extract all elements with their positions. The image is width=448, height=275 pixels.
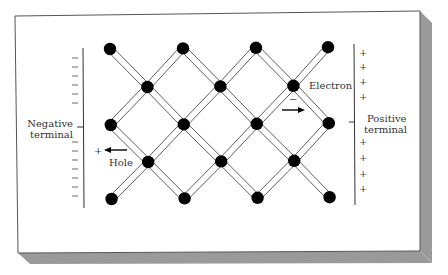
hole-label: Hole [109,157,133,168]
negative-terminal-label-2: terminal [30,129,73,140]
atom-icon [323,191,335,203]
atom-icon [323,117,335,129]
atom-icon [288,155,300,167]
positive-terminal-label-2: terminal [364,124,407,135]
atom-icon [105,119,117,131]
atom-icon [251,192,263,204]
plus-sign-icon: + [359,61,367,72]
atom-icon [142,156,154,168]
plus-sign-icon: + [359,91,367,102]
electron-label: Electron [309,80,353,91]
atom-icon [215,155,227,167]
atom-icon [214,80,226,92]
electron-charge: − [289,94,297,105]
plus-sign-icon: + [359,183,367,194]
atom-icon [250,42,262,54]
atom-icon [322,41,334,53]
atom-icon [251,118,263,130]
negative-terminal-label-1: Negative [27,118,73,129]
atom-icon [105,193,117,205]
atom-icon [178,118,190,130]
diagram-canvas: Negative terminal ++++++++ Positive term… [0,0,448,275]
plus-sign-icon: + [359,47,367,58]
plus-sign-icon: + [359,136,367,147]
atom-icon [287,80,299,92]
atom-icon [178,192,190,204]
plus-sign-icon: + [359,168,367,179]
plus-sign-icon: + [359,76,367,87]
atom-icon [104,43,116,55]
positive-terminal-label-1: Positive [367,113,407,124]
atom-icon [177,42,189,54]
atom-icon [141,81,153,93]
plus-sign-icon: + [359,152,367,163]
hole-charge: + [94,145,102,156]
